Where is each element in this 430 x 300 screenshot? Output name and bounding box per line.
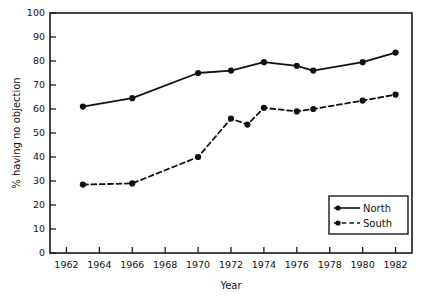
data-point-south [360, 98, 366, 104]
legend-marker-north [335, 205, 340, 210]
chart-canvas: 0102030405060708090100 19621964196619681… [0, 0, 430, 300]
data-point-markers [80, 50, 399, 188]
legend-marker-south [335, 220, 340, 225]
data-point-south [228, 116, 234, 122]
legend-label-north: North [363, 203, 391, 214]
data-point-south [392, 92, 398, 98]
y-tick-label: 80 [33, 55, 45, 66]
data-point-south [294, 108, 300, 114]
x-tick-label: 1966 [120, 259, 144, 270]
x-axis-title: Year [219, 280, 242, 291]
x-axis-tick-labels: 1962196419661968197019721974197619781980… [54, 259, 407, 270]
x-tick-label: 1978 [318, 259, 342, 270]
y-tick-label: 90 [33, 31, 45, 42]
data-point-north [228, 68, 234, 74]
line-chart: 0102030405060708090100 19621964196619681… [0, 0, 430, 300]
data-point-south [80, 182, 86, 188]
y-tick-label: 60 [33, 103, 45, 114]
x-tick-label: 1980 [351, 259, 375, 270]
x-tick-label: 1964 [87, 259, 111, 270]
x-tick-label: 1982 [383, 259, 407, 270]
x-tick-label: 1968 [153, 259, 177, 270]
data-series-group [83, 53, 396, 185]
y-tick-label: 30 [33, 175, 45, 186]
data-point-north [195, 70, 201, 76]
y-tick-label: 20 [33, 199, 45, 210]
data-point-north [360, 59, 366, 65]
y-tick-label: 50 [33, 127, 45, 138]
x-axis-ticks [66, 247, 395, 253]
x-tick-label: 1972 [219, 259, 243, 270]
data-point-south [261, 105, 267, 111]
y-tick-label: 40 [33, 151, 45, 162]
y-axis-tick-labels: 0102030405060708090100 [27, 7, 45, 258]
x-tick-label: 1962 [54, 259, 78, 270]
y-tick-label: 10 [33, 223, 45, 234]
y-tick-label: 70 [33, 79, 45, 90]
y-axis-ticks [50, 13, 56, 253]
data-point-north [80, 104, 86, 110]
data-point-south [310, 106, 316, 112]
chart-legend[interactable]: North South [329, 196, 408, 234]
data-point-north [261, 59, 267, 65]
data-point-north [392, 50, 398, 56]
x-tick-label: 1974 [252, 259, 276, 270]
series-line-south [83, 95, 396, 185]
y-tick-label: 0 [39, 247, 45, 258]
data-point-south [195, 154, 201, 160]
x-tick-label: 1976 [285, 259, 309, 270]
data-point-north [294, 63, 300, 69]
y-axis-title: % having no objection [11, 77, 22, 188]
data-point-north [310, 68, 316, 74]
legend-label-south: South [363, 218, 392, 229]
data-point-north [129, 95, 135, 101]
x-tick-label: 1970 [186, 259, 210, 270]
data-point-south [244, 122, 250, 128]
y-tick-label: 100 [27, 7, 45, 18]
data-point-south [129, 180, 135, 186]
